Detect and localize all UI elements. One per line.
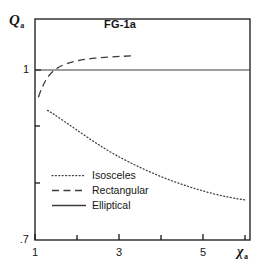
legend-label-rectangular: Rectangular — [92, 185, 149, 196]
y-axis-label: Qa — [9, 13, 24, 30]
figure-fg-1a: FG-1a Qa χa 1 .7 1 3 5 Isosceles Rectang… — [0, 0, 268, 275]
ytick-label-1: 1 — [9, 64, 29, 75]
y-axis-label-subscript: a — [20, 21, 24, 30]
legend-label-isosceles: Isosceles — [92, 170, 136, 181]
axes-frame — [35, 19, 250, 240]
x-axis-label: χa — [237, 245, 248, 261]
ytick-label-0-7: .7 — [9, 234, 29, 245]
x-axis-label-subscript: a — [244, 252, 248, 261]
plot-area — [0, 0, 268, 275]
y-axis-label-symbol: Q — [9, 12, 20, 28]
legend-label-elliptical: Elliptical — [92, 200, 131, 211]
xtick-label-1: 1 — [25, 247, 45, 258]
xtick-label-5: 5 — [193, 247, 213, 258]
xtick-label-3: 3 — [109, 247, 129, 258]
x-axis-label-symbol: χ — [237, 244, 244, 259]
chart-title: FG-1a — [104, 19, 136, 30]
